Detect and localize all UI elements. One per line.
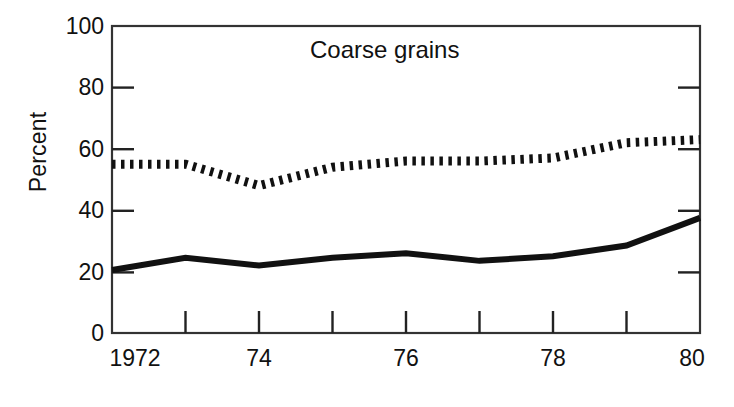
y-axis-ticks-right (678, 88, 700, 273)
chart-title: Coarse grains (310, 36, 459, 64)
x-axis-ticks (186, 311, 627, 333)
y-axis-ticks-left (112, 88, 134, 273)
chart-figure: Percent 100 80 60 40 20 0 1972 74 76 78 … (0, 0, 734, 407)
series-line-dotted (112, 140, 700, 186)
axis-frame (112, 26, 700, 333)
series-line-solid (112, 218, 700, 270)
